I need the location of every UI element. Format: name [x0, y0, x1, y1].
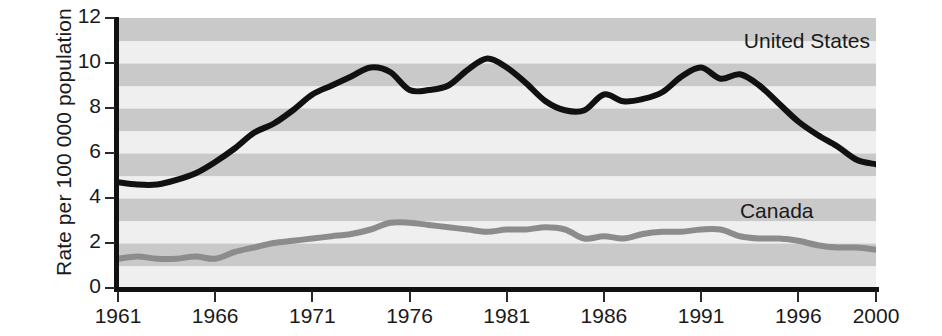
background-band [118, 266, 876, 289]
y-tick-label: 4 [55, 184, 101, 208]
x-tick-mark [214, 291, 216, 302]
x-tick-label: 2000 [831, 304, 921, 328]
plot-svg [118, 18, 876, 288]
background-band [118, 63, 876, 86]
background-band [118, 176, 876, 199]
x-tick-label: 1976 [365, 304, 455, 328]
x-axis-line [114, 287, 879, 292]
series-label-united-states: United States [744, 29, 870, 53]
x-tick-label: 1981 [462, 304, 552, 328]
background-band [118, 108, 876, 131]
y-tick-mark [105, 152, 115, 154]
y-tick-mark [105, 62, 115, 64]
y-tick-label: 0 [55, 274, 101, 298]
x-tick-label: 1971 [267, 304, 357, 328]
chart-container: Rate per 100 000 population 024681012 19… [0, 0, 942, 336]
plot-area [118, 18, 876, 288]
y-tick-label: 12 [55, 4, 101, 28]
x-tick-mark [506, 291, 508, 302]
x-tick-mark [603, 291, 605, 302]
background-band [118, 153, 876, 176]
x-tick-mark [700, 291, 702, 302]
y-tick-mark [105, 107, 115, 109]
x-tick-label: 1961 [73, 304, 163, 328]
x-tick-mark [875, 291, 877, 302]
y-tick-label: 2 [55, 229, 101, 253]
y-tick-mark [105, 17, 115, 19]
x-tick-label: 1966 [170, 304, 260, 328]
y-tick-mark [105, 242, 115, 244]
series-label-canada: Canada [740, 199, 814, 223]
x-tick-label: 1986 [559, 304, 649, 328]
x-tick-label: 1991 [656, 304, 746, 328]
y-tick-label: 6 [55, 139, 101, 163]
y-tick-mark [105, 197, 115, 199]
y-tick-label: 8 [55, 94, 101, 118]
x-tick-mark [409, 291, 411, 302]
y-tick-mark [105, 287, 115, 289]
y-tick-label: 10 [55, 49, 101, 73]
x-tick-mark [797, 291, 799, 302]
x-tick-label: 1996 [753, 304, 843, 328]
x-tick-mark [311, 291, 313, 302]
x-tick-mark [117, 291, 119, 302]
